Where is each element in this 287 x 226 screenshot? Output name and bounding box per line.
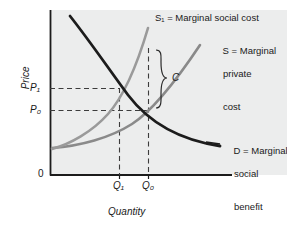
curve-label-marginal-private-cost: S = Marginal private cost: [212, 34, 276, 135]
x-tick-label-q0: Q₀: [142, 180, 154, 192]
economics-externality-chart: Price Quantity P₁ P₀ 0 Q₁ Q₀ S₁ = Margin…: [0, 0, 287, 226]
curve-label-s-line2: private: [212, 68, 276, 79]
curve-label-marginal-social-benefit: D = Marginal social benefit: [223, 134, 287, 226]
origin-label: 0: [38, 168, 44, 180]
y-tick-label-p1: P₁: [30, 82, 40, 94]
curve-label-d-line3: benefit: [223, 201, 287, 212]
curve-label-marginal-social-cost: S₁ = Marginal social cost: [155, 12, 259, 23]
curve-label-s-line1: S = Marginal: [223, 45, 277, 56]
y-tick-label-p0: P₀: [30, 104, 41, 116]
curve-label-d-line1: D = Marginal: [234, 145, 287, 156]
x-axis-label: Quantity: [108, 206, 145, 218]
annotation-label-c: C: [172, 72, 179, 84]
x-tick-label-q1: Q₁: [113, 180, 124, 192]
curve-label-d-line2: social: [223, 168, 287, 179]
curve-label-s-line3: cost: [212, 101, 276, 112]
